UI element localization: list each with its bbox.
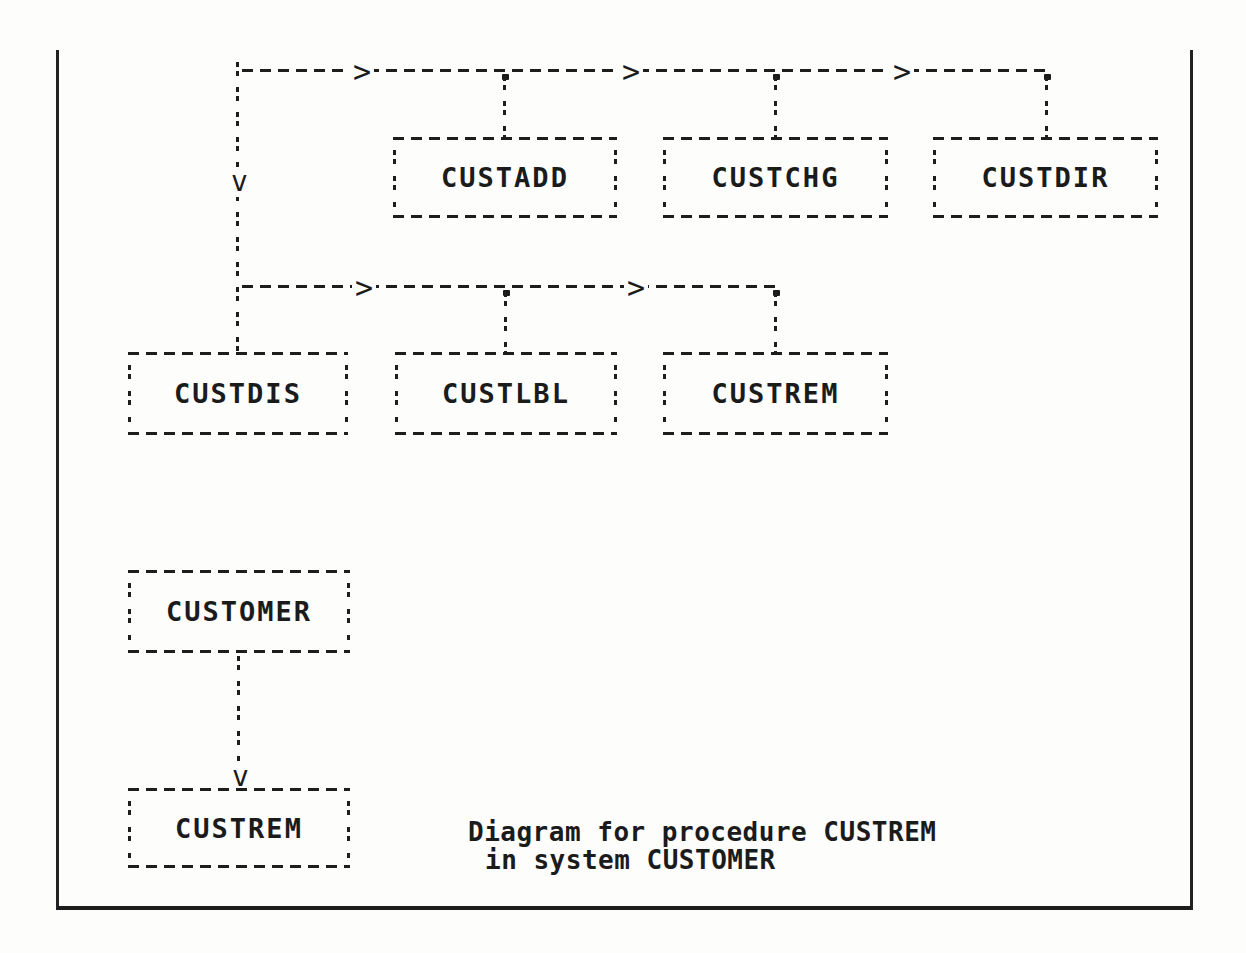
node-label: CUSTREM [712,378,840,409]
scanned-diagram-page: > > > v > > CUSTADD CUSTCHG CUSTDIR CUST… [0,0,1246,953]
connector-second-row-line [242,285,776,288]
caption-line-2: in system CUSTOMER [485,845,776,875]
node-custrem-procedure: CUSTREM [128,788,350,868]
node-custdis: CUSTDIS [128,352,348,435]
node-custadd: CUSTADD [393,137,617,218]
node-label: CUSTREM [175,813,303,844]
node-custlbl: CUSTLBL [395,352,617,435]
connector-drop-custrem [774,292,777,352]
connector-drop-custadd [503,76,506,137]
connector-drop-custlbl [504,292,507,352]
node-custrem-called: CUSTREM [663,352,888,435]
node-customer: CUSTOMER [128,570,350,653]
node-custdir: CUSTDIR [933,137,1158,218]
connector-drop-custdir [1045,76,1048,137]
connector-trunk [236,62,239,353]
node-label: CUSTADD [441,162,569,193]
arrow-right-icon: > [890,55,914,89]
arrow-down-icon: v [227,167,252,197]
node-custchg: CUSTCHG [663,137,888,218]
arrow-right-icon: > [352,271,376,305]
arrow-right-icon: > [619,55,643,89]
connector-drop-custchg [774,76,777,137]
node-label: CUSTDIS [174,378,302,409]
caption-line-1: Diagram for procedure CUSTREM [468,817,936,847]
node-label: CUSTDIR [982,162,1110,193]
node-label: CUSTCHG [712,162,840,193]
node-label: CUSTOMER [166,596,312,627]
arrow-right-icon: > [624,271,648,305]
arrow-right-icon: > [350,55,374,89]
node-label: CUSTLBL [442,378,570,409]
